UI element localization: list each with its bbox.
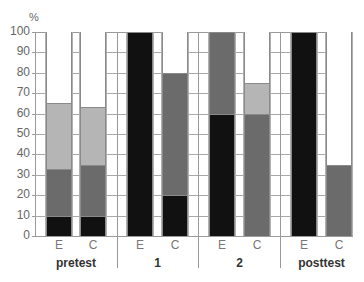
v-gridline	[72, 32, 73, 236]
bar-segment-black	[128, 32, 152, 236]
x-sub-label: E	[291, 238, 317, 252]
bar-posttest-c	[326, 32, 352, 236]
y-tick-label: 10	[0, 208, 30, 222]
bar-segment-dark-gray	[47, 169, 71, 216]
bar-segment-dark-gray	[81, 165, 105, 216]
v-gridline	[153, 32, 154, 236]
y-tick-label: 90	[0, 44, 30, 58]
bar-1-e	[127, 32, 153, 236]
bar-segment-black	[47, 216, 71, 236]
group-divider	[117, 32, 118, 268]
bar-pretest-c	[80, 32, 106, 236]
x-group-label: posttest	[281, 256, 363, 270]
y-tick-mark	[32, 134, 35, 135]
bar-segment-black	[163, 195, 187, 236]
y-tick-label: 100	[0, 24, 30, 38]
bar-segment-dark-gray	[245, 114, 269, 236]
y-tick-mark	[32, 175, 35, 176]
y-tick-mark	[32, 216, 35, 217]
bar-1-c	[162, 32, 188, 236]
bar-segment-black	[210, 114, 234, 236]
x-sub-label: E	[127, 238, 153, 252]
v-gridline	[352, 32, 353, 236]
v-gridline	[317, 32, 318, 236]
x-sub-label: C	[162, 238, 188, 252]
bar-segment-dark-gray	[210, 32, 234, 114]
bar-2-e	[209, 32, 235, 236]
y-tick-label: 50	[0, 126, 30, 140]
y-tick-mark	[32, 93, 35, 94]
group-divider	[198, 32, 199, 268]
x-sub-label: E	[46, 238, 72, 252]
x-group-label: 1	[117, 256, 199, 270]
x-sub-label: C	[326, 238, 352, 252]
y-tick-label: 0	[0, 228, 30, 242]
x-sub-label: E	[209, 238, 235, 252]
stacked-bar-chart: % 0102030405060708090100 ECpretestEC1EC2…	[0, 0, 364, 282]
y-tick-label: 20	[0, 187, 30, 201]
y-tick-mark	[32, 32, 35, 33]
y-tick-mark	[32, 73, 35, 74]
v-gridline	[106, 32, 107, 236]
y-tick-label: 80	[0, 65, 30, 79]
y-tick-mark	[32, 154, 35, 155]
group-divider	[280, 32, 281, 268]
y-tick-mark	[32, 236, 35, 237]
y-tick-mark	[32, 52, 35, 53]
v-gridline	[235, 32, 236, 236]
bar-2-c	[244, 32, 270, 236]
bar-segment-dark-gray	[163, 73, 187, 195]
bar-segment-black	[81, 216, 105, 236]
bar-segment-light-gray	[81, 107, 105, 164]
bar-posttest-e	[291, 32, 317, 236]
x-group-label: pretest	[35, 256, 117, 270]
x-axis-line	[35, 236, 352, 237]
bar-segment-light-gray	[47, 103, 71, 168]
y-tick-label: 70	[0, 85, 30, 99]
x-group-label: 2	[199, 256, 281, 270]
y-tick-mark	[32, 195, 35, 196]
x-sub-label: C	[80, 238, 106, 252]
bar-segment-dark-gray	[327, 165, 351, 236]
y-tick-label: 60	[0, 106, 30, 120]
y-tick-label: 30	[0, 167, 30, 181]
bar-pretest-e	[46, 32, 72, 236]
bar-segment-light-gray	[245, 83, 269, 114]
v-gridline	[188, 32, 189, 236]
y-tick-mark	[32, 114, 35, 115]
v-gridline	[270, 32, 271, 236]
y-axis-unit: %	[29, 11, 39, 23]
x-sub-label: C	[244, 238, 270, 252]
y-tick-label: 40	[0, 146, 30, 160]
bar-segment-black	[292, 32, 316, 236]
